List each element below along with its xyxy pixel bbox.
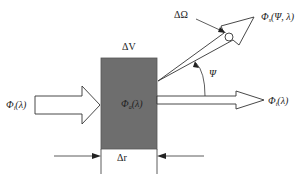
transmitted-flux-arrow <box>157 91 264 109</box>
solid-angle-pointer <box>196 19 222 31</box>
dimension-arrowhead-left <box>92 153 101 159</box>
absorbed-arg: (λ) <box>132 98 143 109</box>
incident-flux-arrow <box>35 86 100 124</box>
solid-angle-label: ΔΩ <box>174 10 188 20</box>
incident-arg: (λ) <box>15 99 26 110</box>
volume-label: ΔV <box>122 42 136 52</box>
incident-symbol: Φ <box>6 99 14 110</box>
scattered-arg: (Ψ, λ) <box>271 11 294 22</box>
angle-arc-head <box>193 61 199 68</box>
scattered-flux-label: Φs(Ψ, λ) <box>261 12 294 23</box>
radiative-transfer-diagram: ΔV Δr ΔΩ Ψ Φi(λ) Φa(λ) Φt(λ) Φs(Ψ, λ) <box>0 0 304 182</box>
thickness-label: Δr <box>117 153 127 163</box>
scattered-flux-arrow <box>158 17 254 81</box>
angle-label: Ψ <box>209 69 216 79</box>
scattered-symbol: Φ <box>261 11 269 22</box>
transmitted-symbol: Φ <box>268 95 276 106</box>
incident-flux-label: Φi(λ) <box>6 100 26 111</box>
diagram-graphics <box>0 0 304 182</box>
absorbed-flux-label: Φa(λ) <box>121 99 143 110</box>
transmitted-flux-label: Φt(λ) <box>268 96 288 107</box>
dimension-arrowhead-right <box>157 153 166 159</box>
absorbed-symbol: Φ <box>121 98 129 109</box>
solid-angle-marker <box>225 33 233 41</box>
transmitted-arg: (λ) <box>277 95 288 106</box>
angle-arc <box>196 63 205 96</box>
